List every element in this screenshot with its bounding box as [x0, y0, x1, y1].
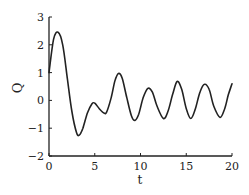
data-line — [49, 32, 232, 136]
line-plot: −2−1012305101520 t Q — [0, 0, 249, 195]
chart: −2−1012305101520 t Q — [0, 0, 249, 195]
x-tick-label: 20 — [225, 160, 239, 173]
y-axis-label: Q — [10, 83, 25, 94]
y-tick-label: 3 — [37, 11, 44, 24]
x-tick-label: 10 — [134, 160, 148, 173]
y-tick-label: 2 — [37, 39, 44, 52]
x-tick-label: 15 — [179, 160, 193, 173]
x-axis-label: t — [138, 173, 143, 187]
y-tick-label: −2 — [28, 150, 44, 163]
y-tick-label: −1 — [28, 122, 44, 135]
y-tick-label: 0 — [37, 94, 44, 107]
axes — [49, 17, 232, 156]
x-tick-label: 0 — [46, 160, 53, 173]
x-tick-label: 5 — [91, 160, 98, 173]
y-tick-label: 1 — [37, 67, 44, 80]
